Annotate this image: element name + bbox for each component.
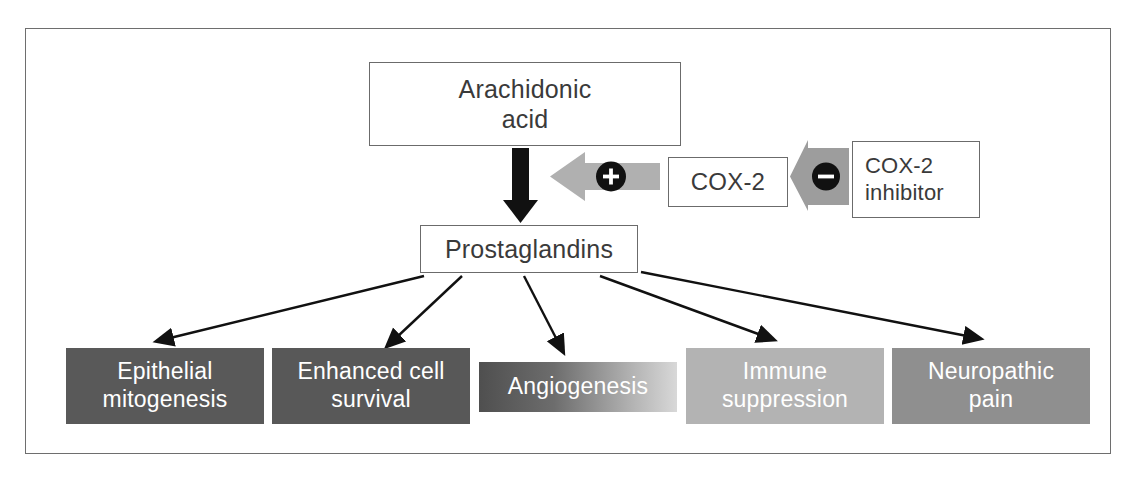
outcome-enhanced-cell-survival[interactable]: Enhanced cell survival bbox=[272, 348, 470, 424]
outcome-immune-suppression-label: Immune suppression bbox=[722, 358, 848, 413]
node-prostaglandins[interactable]: Prostaglandins bbox=[420, 225, 638, 273]
outcome-immune-suppression[interactable]: Immune suppression bbox=[686, 348, 884, 424]
figure-caption bbox=[280, 466, 860, 482]
node-cox2-inhibitor-label: COX-2 inhibitor bbox=[865, 153, 944, 207]
outcome-angiogenesis[interactable]: Angiogenesis bbox=[479, 362, 677, 412]
node-prostaglandins-label: Prostaglandins bbox=[445, 234, 613, 265]
outcome-neuropathic-pain[interactable]: Neuropathic pain bbox=[892, 348, 1090, 424]
outcome-enhanced-cell-survival-label: Enhanced cell survival bbox=[297, 358, 444, 413]
outcome-neuropathic-pain-label: Neuropathic pain bbox=[928, 358, 1054, 413]
node-cox2[interactable]: COX-2 bbox=[668, 157, 788, 207]
diagram-canvas: Arachidonic acid COX-2 COX-2 inhibitor P… bbox=[0, 0, 1132, 485]
node-cox2-inhibitor[interactable]: COX-2 inhibitor bbox=[852, 141, 980, 218]
outcome-epithelial-mitogenesis-label: Epithelial mitogenesis bbox=[103, 358, 228, 413]
node-arachidonic-acid-label: Arachidonic acid bbox=[459, 74, 592, 135]
outcome-angiogenesis-label: Angiogenesis bbox=[508, 373, 649, 401]
outcome-epithelial-mitogenesis[interactable]: Epithelial mitogenesis bbox=[66, 348, 264, 424]
node-cox2-label: COX-2 bbox=[691, 167, 765, 196]
node-arachidonic-acid[interactable]: Arachidonic acid bbox=[369, 62, 681, 146]
